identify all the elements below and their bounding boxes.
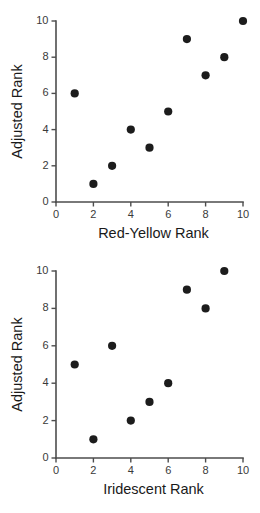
y-tick-label: 8 [42,301,48,313]
data-point [71,360,79,368]
data-point [220,53,228,61]
y-tick-label: 0 [42,451,48,463]
y-tick-label: 10 [36,14,48,26]
scatter-panel-red-yellow: 02468100246810Red-Yellow RankAdjusted Ra… [0,0,260,257]
y-tick-label: 6 [42,86,48,98]
x-tick-label: 8 [203,464,209,476]
data-point [183,35,191,43]
x-tick-label: 0 [53,464,59,476]
y-tick-label: 4 [42,123,48,135]
scatter-plot-iridescent: 02468100246810Iridescent RankAdjusted Ra… [0,250,260,513]
x-axis-title: Red-Yellow Rank [98,225,209,241]
x-tick-label: 6 [165,208,171,220]
x-tick-label: 8 [203,208,209,220]
y-axis-title: Adjusted Rank [9,317,25,412]
y-tick-label: 0 [42,195,48,207]
x-tick-label: 2 [90,464,96,476]
data-point [71,89,79,97]
x-tick-label: 0 [53,208,59,220]
x-tick-label: 10 [237,208,249,220]
x-tick-label: 6 [165,464,171,476]
data-point [239,17,247,25]
data-point [183,286,191,294]
y-tick-label: 2 [42,159,48,171]
data-point [202,304,210,312]
x-tick-label: 4 [128,464,134,476]
scatter-panel-iridescent: 02468100246810Iridescent RankAdjusted Ra… [0,250,260,513]
data-point [127,126,135,134]
data-point [89,435,97,443]
data-point [145,398,153,406]
y-tick-label: 2 [42,414,48,426]
y-tick-label: 6 [42,339,48,351]
data-point [202,71,210,79]
scatter-plot-red-yellow: 02468100246810Red-Yellow RankAdjusted Ra… [0,0,260,257]
y-tick-label: 4 [42,376,48,388]
data-point [127,417,135,425]
y-tick-label: 10 [36,264,48,276]
x-tick-label: 4 [128,208,134,220]
data-point [164,379,172,387]
data-point [108,342,116,350]
data-point [145,144,153,152]
x-axis-title: Iridescent Rank [103,481,204,497]
data-point [89,180,97,188]
y-tick-label: 8 [42,50,48,62]
x-tick-label: 2 [90,208,96,220]
data-point [108,162,116,170]
data-point [164,107,172,115]
y-axis-title: Adjusted Rank [9,64,25,159]
data-point [220,267,228,275]
x-tick-label: 10 [237,464,249,476]
